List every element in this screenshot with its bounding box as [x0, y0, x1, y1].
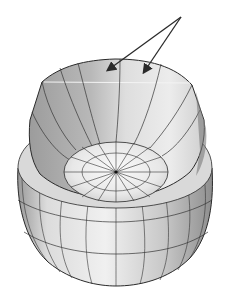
arrow-right [144, 17, 181, 72]
mesh-diagram [0, 0, 227, 298]
mesh-figure [0, 0, 227, 298]
inner-dish [64, 142, 168, 202]
dish-center-point [115, 171, 118, 174]
